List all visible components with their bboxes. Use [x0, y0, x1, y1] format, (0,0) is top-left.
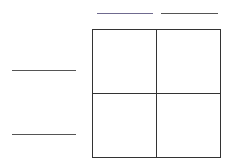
- punnett-cell-top-left[interactable]: [93, 30, 157, 94]
- punnett-cell-bottom-right[interactable]: [157, 94, 221, 158]
- left-allele-blank-2[interactable]: [12, 134, 76, 135]
- punnett-grid: [92, 29, 221, 158]
- top-allele-blank-2[interactable]: [161, 13, 218, 14]
- punnett-cell-bottom-left[interactable]: [93, 94, 157, 158]
- punnett-cell-top-right[interactable]: [157, 30, 221, 94]
- top-allele-blank-1[interactable]: [97, 13, 153, 14]
- left-allele-blank-1[interactable]: [12, 70, 76, 71]
